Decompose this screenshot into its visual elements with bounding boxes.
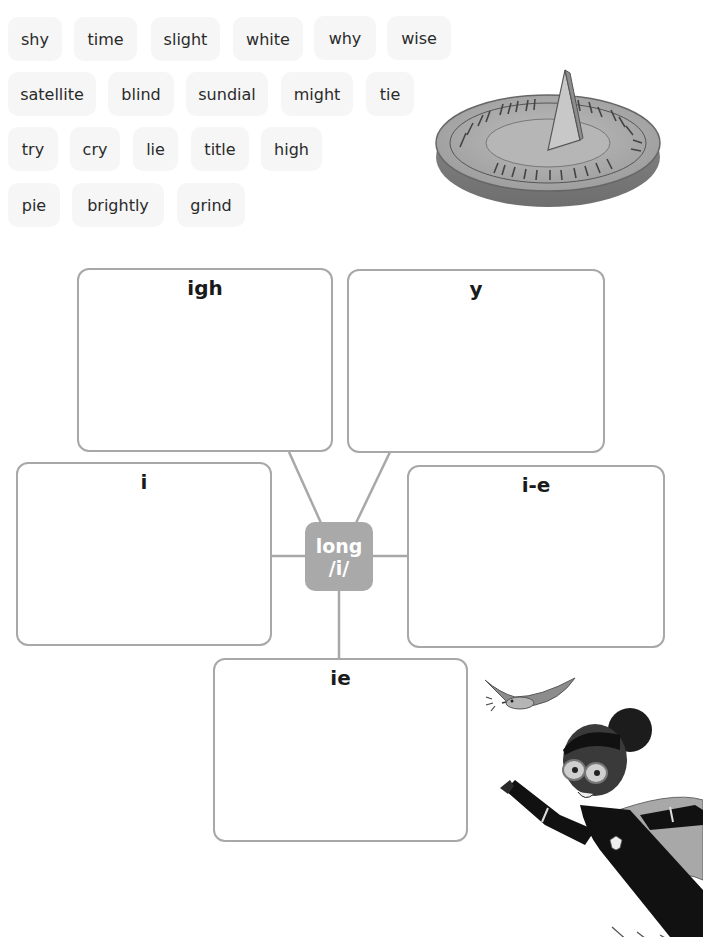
box-igh[interactable]: igh [77, 268, 333, 452]
box-i-e-label: i-e [409, 473, 663, 497]
box-y[interactable]: y [347, 269, 605, 453]
center-node: long /i/ [305, 522, 373, 591]
box-ie[interactable]: ie [213, 658, 468, 842]
center-line-1: long [316, 535, 363, 557]
box-ie-label: ie [215, 666, 466, 690]
box-i-e[interactable]: i-e [407, 465, 665, 648]
box-y-label: y [349, 277, 603, 301]
superhero-icon [470, 690, 703, 937]
box-igh-label: igh [79, 276, 331, 300]
center-line-2: /i/ [329, 557, 349, 579]
box-i-label: i [18, 470, 270, 494]
box-i[interactable]: i [16, 462, 272, 646]
